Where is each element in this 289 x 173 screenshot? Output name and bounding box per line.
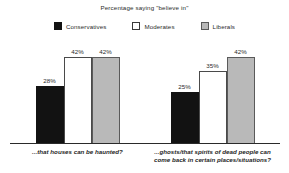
bar-liberals [92,57,120,144]
bar-value-conservatives: 28% [43,77,56,84]
bar-value-liberals: 42% [99,48,112,55]
bar-groups: 28% 42% 42% 25% 35% [10,40,280,144]
bar-slot-liberals: 42% [92,40,120,144]
bar-liberals [227,57,255,144]
bar-group-haunted-houses: 28% 42% 42% [10,40,145,144]
legend-swatch-liberals [201,22,209,30]
category-labels: ...that houses can be haunted? ...ghosts… [10,148,280,165]
legend-swatch-conservatives [54,22,62,30]
bar-slot-moderates: 42% [64,40,92,144]
category-label-ghosts-spirits: ...ghosts/that spirits of dead people ca… [145,148,280,165]
bar-slot-conservatives: 28% [36,40,64,144]
legend-item-liberals: Liberals [201,22,235,30]
chart-legend: Conservatives Moderates Liberals [0,22,289,30]
bar-slot-liberals: 42% [227,40,255,144]
legend-label-liberals: Liberals [213,23,235,30]
plot-area: 28% 42% 42% 25% 35% [10,40,280,144]
bar-moderates [199,71,227,144]
category-label-haunted-houses: ...that houses can be haunted? [10,148,145,165]
bar-value-conservatives: 25% [178,83,191,90]
chart-title: Percentage saying "believe in" [0,4,289,11]
legend-item-conservatives: Conservatives [54,22,107,30]
legend-item-moderates: Moderates [132,22,174,30]
bar-group-bars: 28% 42% 42% [10,40,145,144]
bar-conservatives [36,86,64,144]
x-axis-baseline [10,143,280,144]
legend-label-conservatives: Conservatives [66,23,107,30]
bar-group-ghosts-spirits: 25% 35% 42% [145,40,280,144]
bar-value-moderates: 35% [206,62,219,69]
bar-value-moderates: 42% [71,48,84,55]
legend-label-moderates: Moderates [144,23,174,30]
bar-conservatives [171,92,199,144]
bar-slot-moderates: 35% [199,40,227,144]
bar-group-bars: 25% 35% 42% [145,40,280,144]
bar-moderates [64,57,92,144]
legend-swatch-moderates [132,22,140,30]
bar-value-liberals: 42% [234,48,247,55]
bar-slot-conservatives: 25% [171,40,199,144]
